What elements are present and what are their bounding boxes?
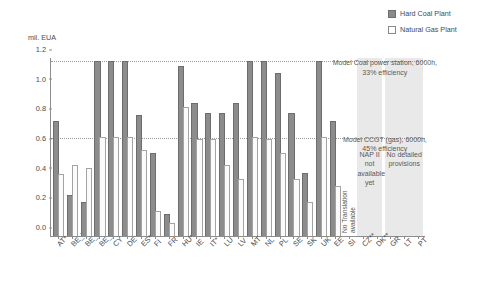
y-axis-tick-label: 0.2 xyxy=(36,193,51,202)
bar-natural-gas-plant xyxy=(141,150,147,236)
bar-natural-gas-plant xyxy=(266,139,272,236)
bar-group xyxy=(190,58,204,236)
annotation-no-translation: No Translation available xyxy=(341,169,356,233)
bar-group xyxy=(203,58,217,236)
annotation-gas-model: Model CCGT (gas), 6000h, 45% efficiency xyxy=(325,135,445,153)
bar-natural-gas-plant xyxy=(252,137,258,236)
legend-swatch-filled-square-icon xyxy=(388,10,396,18)
bar-group xyxy=(51,58,65,236)
y-axis-tick-label: 1.0 xyxy=(36,74,51,83)
bar-natural-gas-plant xyxy=(293,179,299,236)
bar-group xyxy=(79,58,93,236)
y-axis-tick-label: 0.0 xyxy=(36,223,51,232)
bar-natural-gas-plant xyxy=(169,223,175,236)
bar-group xyxy=(273,58,287,236)
bar-group xyxy=(245,58,259,236)
chart-figure: Hard Coal Plant Natural Gas Plant mil. E… xyxy=(0,0,494,297)
bar-group xyxy=(65,58,79,236)
bar-group xyxy=(93,58,107,236)
bar-natural-gas-plant xyxy=(58,174,64,236)
legend-swatch-empty-square-icon xyxy=(388,26,396,34)
x-axis-label: SI xyxy=(346,237,357,248)
y-axis-tick-label: 0.4 xyxy=(36,163,51,172)
x-axis-label: IE xyxy=(194,237,205,248)
bar-group xyxy=(176,58,190,236)
bar-group xyxy=(134,58,148,236)
annotation-nap-unavailable: NAP II not available yet xyxy=(357,150,381,188)
bar-natural-gas-plant xyxy=(113,137,119,236)
bar-natural-gas-plant xyxy=(86,168,92,236)
bar-natural-gas-plant xyxy=(196,139,202,236)
bar-group xyxy=(106,58,120,236)
y-axis-title: mil. EUA xyxy=(28,33,56,42)
bar-natural-gas-plant xyxy=(183,107,189,236)
legend-label-hard-coal-plant: Hard Coal Plant xyxy=(400,9,451,18)
bar-natural-gas-plant xyxy=(72,165,78,236)
y-axis-tick-label: 0.8 xyxy=(36,104,51,113)
bar-group xyxy=(148,58,162,236)
bar-natural-gas-plant xyxy=(155,211,161,236)
legend-label-natural-gas-plant: Natural Gas Plant xyxy=(400,25,457,34)
bar-natural-gas-plant xyxy=(210,139,216,236)
bar-group xyxy=(231,58,245,236)
bar-natural-gas-plant xyxy=(99,137,105,236)
bar-natural-gas-plant xyxy=(224,165,230,236)
legend-item-hard-coal-plant: Hard Coal Plant xyxy=(388,9,488,18)
bar-group xyxy=(286,58,300,236)
x-axis-label: FI xyxy=(152,237,163,248)
bar-group xyxy=(120,58,134,236)
bar-natural-gas-plant xyxy=(238,179,244,236)
chart-legend: Hard Coal Plant Natural Gas Plant xyxy=(388,9,488,41)
legend-item-natural-gas-plant: Natural Gas Plant xyxy=(388,25,488,34)
bar-group xyxy=(217,58,231,236)
bar-natural-gas-plant xyxy=(280,153,286,236)
bar-group xyxy=(300,58,314,236)
bar-natural-gas-plant xyxy=(127,137,133,236)
bar-group xyxy=(259,58,273,236)
y-axis-tick-label: 0.6 xyxy=(36,134,51,143)
y-axis-tick-label: 1.2 xyxy=(36,45,51,54)
annotation-coal-model: Model Coal power station, 6000h, 33% eff… xyxy=(325,58,445,76)
bar-group xyxy=(162,58,176,236)
bar-natural-gas-plant xyxy=(307,202,313,236)
